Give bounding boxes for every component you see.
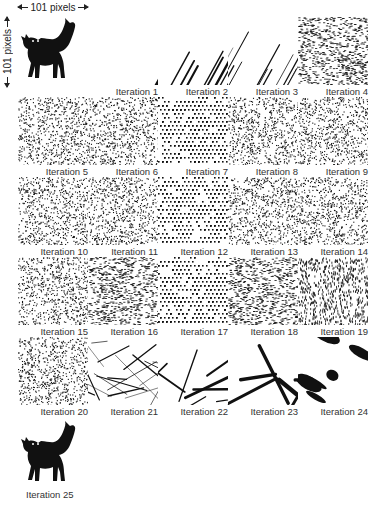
iteration-label: Iteration 14 bbox=[298, 246, 368, 257]
iteration-image bbox=[88, 257, 158, 325]
iteration-label: Iteration 6 bbox=[88, 166, 158, 177]
arrow-down-icon bbox=[7, 77, 8, 87]
iteration-image bbox=[158, 257, 228, 325]
iteration-label: Iteration 20 bbox=[18, 406, 88, 417]
iteration-image bbox=[88, 97, 158, 165]
iteration-label: Iteration 21 bbox=[88, 406, 158, 417]
iteration-image bbox=[228, 97, 298, 165]
iteration-image bbox=[18, 257, 88, 325]
iteration-label: Iteration 18 bbox=[228, 326, 298, 337]
width-label: 101 pixels bbox=[28, 2, 77, 13]
arrow-right-icon bbox=[78, 7, 88, 8]
iteration-image bbox=[18, 177, 88, 245]
iteration-image bbox=[158, 97, 228, 165]
iteration-image bbox=[298, 17, 368, 85]
iteration-label: Iteration 2 bbox=[158, 86, 228, 97]
iteration-label: Iteration 9 bbox=[298, 166, 368, 177]
iteration-label: Iteration 16 bbox=[88, 326, 158, 337]
iteration-image bbox=[88, 337, 158, 405]
iteration-image bbox=[228, 257, 298, 325]
iteration-label: Iteration 17 bbox=[158, 326, 228, 337]
iteration-image bbox=[88, 177, 158, 245]
iteration-image bbox=[298, 177, 368, 245]
iteration-label: Iteration 4 bbox=[298, 86, 368, 97]
height-label: 101 pixels bbox=[2, 27, 13, 76]
iteration-label: Iteration 22 bbox=[158, 406, 228, 417]
iteration-label: Iteration 19 bbox=[298, 326, 368, 337]
iteration-label: Iteration 5 bbox=[18, 166, 88, 177]
iteration-image bbox=[158, 337, 228, 405]
iteration-label: Iteration 7 bbox=[158, 166, 228, 177]
arrow-left-icon bbox=[18, 7, 28, 8]
iteration-label: Iteration 12 bbox=[158, 246, 228, 257]
iteration-label: Iteration 15 bbox=[18, 326, 88, 337]
height-dimension: 101 pixels bbox=[1, 17, 13, 87]
iteration-label: Iteration 24 bbox=[298, 406, 368, 417]
iteration-label: Iteration 3 bbox=[228, 86, 298, 97]
iteration-image bbox=[228, 177, 298, 245]
arrow-up-icon bbox=[7, 17, 8, 27]
iteration-label: Iteration 8 bbox=[228, 166, 298, 177]
iteration-label: Iteration 25 bbox=[26, 489, 96, 500]
iteration-image bbox=[158, 17, 228, 85]
iteration-label: Iteration 10 bbox=[18, 246, 88, 257]
iteration-label: Iteration 11 bbox=[88, 246, 158, 257]
iteration-image bbox=[298, 337, 368, 405]
width-dimension: 101 pixels bbox=[18, 1, 88, 13]
iteration-image bbox=[158, 177, 228, 245]
iteration-label: Iteration 13 bbox=[228, 246, 298, 257]
cat-image bbox=[18, 420, 88, 488]
iteration-image bbox=[88, 17, 158, 85]
iteration-image bbox=[298, 97, 368, 165]
iteration-image bbox=[18, 97, 88, 165]
iteration-label: Iteration 23 bbox=[228, 406, 298, 417]
cat-image bbox=[18, 17, 88, 85]
iteration-image bbox=[298, 257, 368, 325]
iteration-image bbox=[228, 337, 298, 405]
iteration-image bbox=[18, 337, 88, 405]
iteration-image bbox=[228, 17, 298, 85]
iteration-label: Iteration 1 bbox=[88, 86, 158, 97]
